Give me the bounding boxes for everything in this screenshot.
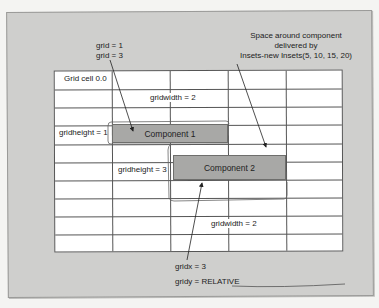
gridx-label: gridx = 3 — [175, 262, 206, 271]
component-1-label: Component 1 — [144, 129, 195, 139]
gridwidth-top-label: gridwidth = 2 — [148, 93, 198, 102]
grid-annotation: grid = 1 grid = 3 — [96, 41, 123, 61]
grid-row-line — [55, 106, 342, 108]
gridheight-1-label: gridheight = 1 — [57, 128, 110, 137]
grid-annotation-line2: grid = 3 — [96, 51, 123, 61]
component-2: Component 2 — [173, 155, 286, 180]
insets-annotation: Space around component delivered by Inse… — [230, 31, 362, 61]
component-1: Component 1 — [112, 124, 228, 143]
insets-annotation-line2: delivered by — [230, 41, 362, 51]
component-2-label: Component 2 — [204, 163, 255, 173]
gridwidth-bottom-label: gridwidth = 2 — [209, 219, 259, 228]
grid-row-line — [55, 143, 342, 145]
grid-cell-origin-label: Grid cell 0.0 — [62, 74, 109, 83]
grid-row-line — [55, 215, 342, 217]
grid-row-line — [55, 197, 342, 199]
insets-annotation-line3: Insets-new Insets(5, 10, 15, 20) — [230, 51, 362, 61]
grid-annotation-line1: grid = 1 — [96, 41, 123, 51]
grid-row-line — [55, 88, 342, 90]
grid-row-line — [55, 233, 342, 235]
gridy-label: gridy = RELATIVE — [175, 277, 240, 286]
insets-annotation-line1: Space around component — [230, 31, 362, 41]
gridheight-3-label: gridheight = 3 — [116, 165, 169, 174]
